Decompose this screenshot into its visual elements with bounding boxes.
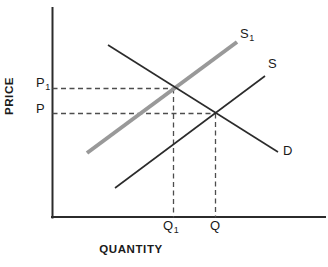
curve-s1-subscript: 1	[249, 33, 254, 43]
price-axis-title: PRICE	[3, 77, 15, 115]
demand-curve-d	[108, 45, 278, 152]
y-tick-label-p: P	[36, 102, 45, 115]
axes-group	[52, 8, 325, 218]
curve-label-d: D	[283, 144, 292, 157]
y-tick-label-p1: P1	[36, 76, 50, 89]
x-tick-label-q: Q	[210, 219, 220, 232]
curve-s1-main: S	[240, 26, 249, 41]
curve-label-s: S	[268, 57, 277, 70]
guide-lines-group	[53, 89, 216, 218]
supply-curve-s	[115, 76, 265, 188]
x-tick-label-q1: Q1	[163, 219, 178, 232]
supply-demand-chart: PRICE QUANTITY P1 P Q1 Q S1 S D	[0, 0, 328, 267]
x-tick-q1-subscript: 1	[174, 225, 179, 235]
y-tick-p1-subscript: 1	[45, 82, 50, 92]
y-tick-p1-main: P	[36, 75, 45, 90]
curve-label-s1: S1	[240, 27, 254, 40]
supply-curve-s1	[87, 42, 237, 153]
quantity-axis-title: QUANTITY	[0, 243, 295, 255]
x-tick-q1-main: Q	[163, 218, 173, 233]
